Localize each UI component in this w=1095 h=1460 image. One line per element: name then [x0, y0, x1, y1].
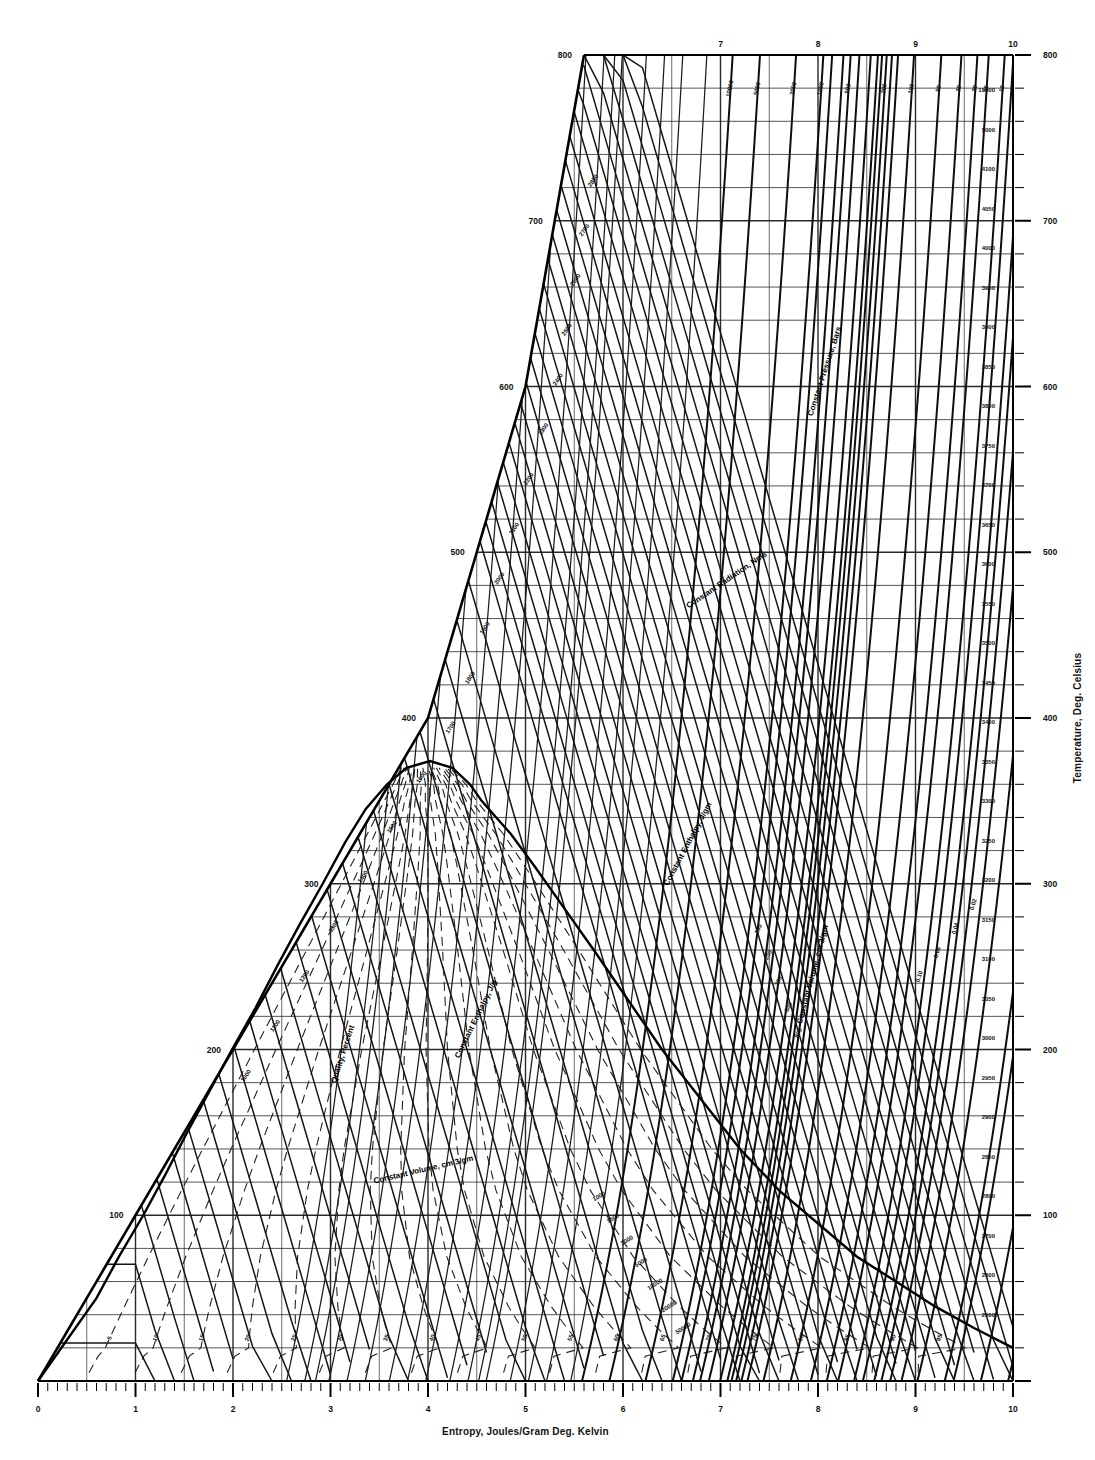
x-axis-tick-label: 2 — [231, 1404, 236, 1414]
curve-label: 3600 — [982, 561, 996, 567]
y-axis-left-tick-label: 600 — [499, 382, 513, 392]
x-axis-tick-label: 10 — [1008, 1404, 1018, 1414]
x-axis-tick-label: 4 — [426, 1404, 431, 1414]
curve-label: 3250 — [982, 838, 996, 844]
x-axis-tick-label: 7 — [718, 1404, 723, 1414]
x-axis-tick-label: 5 — [523, 1404, 528, 1414]
x-axis-tick-label: 6 — [621, 1404, 626, 1414]
y-axis-left-tick-label: 200 — [207, 1045, 221, 1055]
curve-label: 3950 — [982, 285, 996, 291]
y-axis-left-tick-label: 800 — [558, 50, 572, 60]
curve-label: 3800 — [982, 403, 996, 409]
curve-label: 3500 — [982, 640, 996, 646]
curve-label: 4050 — [982, 206, 996, 212]
y-axis-tick-label: 100 — [1043, 1210, 1057, 1220]
x-axis-tick-label: 9 — [913, 1404, 918, 1414]
x-axis-top-tick-label: 7 — [718, 39, 723, 49]
curve-label: 3400 — [982, 719, 996, 725]
curve-label: 3650 — [982, 522, 996, 528]
curve-label: 3450 — [982, 680, 996, 686]
curve-label: 3850 — [982, 364, 996, 370]
curve-label: 2900 — [982, 1114, 996, 1120]
y-axis-tick-label: 800 — [1043, 50, 1057, 60]
curve-label: 2600 — [982, 1272, 996, 1278]
x-axis-tick-label: 3 — [328, 1404, 333, 1414]
curve-label: 3300 — [982, 798, 996, 804]
x-axis-tick-label: 8 — [816, 1404, 821, 1414]
curve-label: 3200 — [982, 877, 996, 883]
y-axis-left-tick-label: 100 — [109, 1210, 123, 1220]
curve-label: 2500 — [982, 1312, 996, 1318]
curve-label: 10000 — [978, 87, 995, 93]
thermodynamic-chart: 5101520253035404550556065707580859095 01… — [0, 0, 1095, 1460]
curve-label: 4100 — [982, 166, 996, 172]
curve-label: 2700 — [982, 1233, 996, 1239]
y-axis-tick-label: 500 — [1043, 547, 1057, 557]
curve-label: 3550 — [982, 601, 996, 607]
x-axis-top-tick-label: 9 — [913, 39, 918, 49]
y-axis-tick-label: 300 — [1043, 879, 1057, 889]
curve-label: 3150 — [982, 917, 996, 923]
curve-label: 3750 — [982, 443, 996, 449]
y-axis-left-tick-label: 700 — [529, 216, 543, 226]
curve-label: 3100 — [982, 956, 996, 962]
y-axis-left-tick-label: 400 — [402, 713, 416, 723]
curve-label: 2950 — [982, 1075, 996, 1081]
y-axis-tick-label: 200 — [1043, 1045, 1057, 1055]
curve-label: 3350 — [982, 759, 996, 765]
y-axis-left-tick-label: 500 — [451, 547, 465, 557]
curve-label: 2800 — [982, 1193, 996, 1199]
curve-label: 3900 — [982, 324, 996, 330]
y-axis-title: Temperature, Deg. Celsius — [1072, 653, 1083, 784]
curve-label: 2850 — [982, 1154, 996, 1160]
x-axis-title: Entropy, Joules/Gram Deg. Kelvin — [442, 1426, 609, 1437]
curve-label: 3050 — [982, 996, 996, 1002]
y-axis-tick-label: 700 — [1043, 216, 1057, 226]
curve-label: 3700 — [982, 482, 996, 488]
y-axis-tick-label: 400 — [1043, 713, 1057, 723]
x-axis-top-tick-label: 10 — [1008, 39, 1018, 49]
x-axis-tick-label: 1 — [133, 1404, 138, 1414]
x-axis-tick-label: 0 — [36, 1404, 41, 1414]
y-axis-tick-label: 600 — [1043, 382, 1057, 392]
curve-label: 3000 — [982, 1035, 996, 1041]
curve-label: 5000 — [982, 127, 996, 133]
chart-canvas: 5101520253035404550556065707580859095 01… — [0, 0, 1095, 1460]
curve-label: 4000 — [982, 245, 996, 251]
x-axis-top-tick-label: 8 — [816, 39, 821, 49]
y-axis-left-tick-label: 300 — [304, 879, 318, 889]
